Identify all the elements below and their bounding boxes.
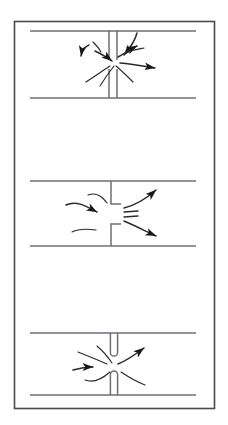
flow-restriction-diagram	[0, 0, 228, 425]
background	[0, 0, 228, 425]
figure-canvas	[0, 0, 228, 425]
